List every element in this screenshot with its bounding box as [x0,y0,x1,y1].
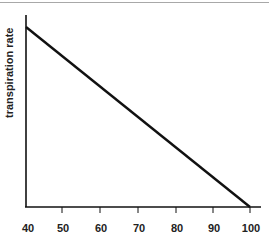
x-tick-label-100: 100 [242,222,260,234]
chart-plot [0,0,269,244]
x-ticks [62,207,250,213]
x-tick-label-40: 40 [22,222,34,234]
x-tick-label-50: 50 [57,222,69,234]
x-tick-label-70: 70 [133,222,145,234]
x-tick-label-60: 60 [95,222,107,234]
y-axis-label: transpiration rate [3,28,15,118]
transpiration-line [26,27,250,207]
x-tick-label-80: 80 [171,222,183,234]
x-tick-label-90: 90 [208,222,220,234]
